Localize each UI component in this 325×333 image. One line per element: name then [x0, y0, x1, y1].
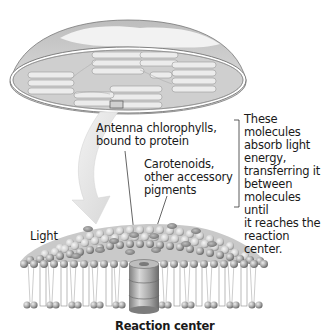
reaction-center-complex	[129, 260, 159, 315]
label-carotenoids: Carotenoids, other accessory pigments	[144, 158, 233, 197]
antenna-pointer	[125, 151, 134, 233]
label-bracket-note: These molecules absorb light energy, tra…	[244, 113, 325, 256]
label-reaction-center: Reaction center	[115, 320, 215, 333]
bracket	[234, 120, 239, 207]
chloroplast	[10, 20, 246, 114]
label-antenna-chlorophylls: Antenna chlorophylls, bound to protein	[96, 122, 217, 148]
selection-box	[110, 101, 123, 108]
label-light: Light	[30, 230, 58, 243]
